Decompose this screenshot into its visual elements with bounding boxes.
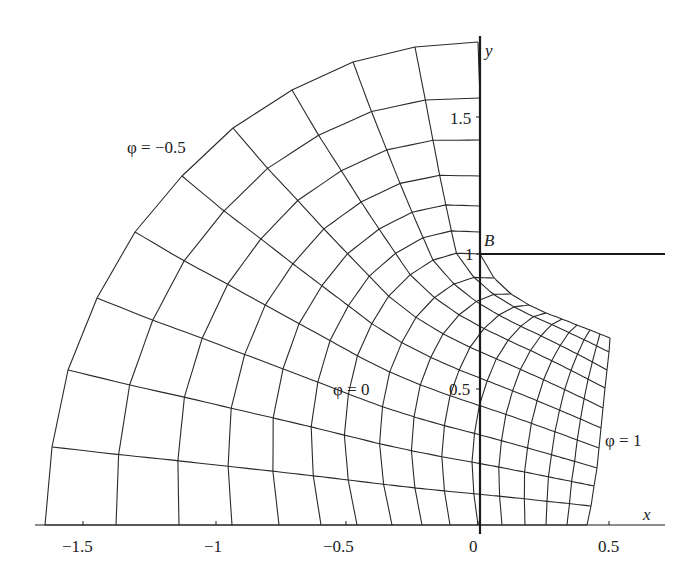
- streamline: [135, 232, 599, 448]
- equipotential-line: [567, 334, 600, 525]
- point-b-label: B: [484, 232, 494, 249]
- streamline: [182, 176, 601, 428]
- x-tick-label: 0.5: [598, 538, 619, 555]
- x-tick-label: −1.5: [62, 538, 93, 555]
- x-tick-label: −0.5: [323, 538, 354, 555]
- y-axis-label: y: [485, 42, 493, 59]
- equipotential-line: [228, 175, 480, 525]
- streamline: [478, 42, 610, 338]
- equipotential-line: [524, 325, 577, 525]
- flow-net-plot: [0, 0, 700, 586]
- axes: [35, 36, 665, 534]
- phi-outer-label: φ = −0.5: [127, 139, 186, 156]
- streamline: [52, 447, 591, 506]
- equipotential-line: [178, 140, 480, 525]
- equipotential-line: [116, 98, 480, 525]
- y-tick-label: 1.5: [450, 110, 471, 127]
- x-tick-label: 0: [469, 538, 478, 555]
- streamline: [415, 47, 609, 352]
- y-tick-label: 0.5: [449, 381, 470, 398]
- phi-one-label: φ = 1: [605, 432, 641, 449]
- equipotential-line: [45, 42, 478, 525]
- equipotential-line: [411, 294, 511, 525]
- phi-zero-label: φ = 0: [333, 381, 369, 398]
- streamline: [233, 128, 603, 408]
- equipotential-line: [380, 277, 494, 525]
- flow-net-diagram: −1.5 −1 −0.5 0 0.5 x y 1.5 1 0.5 B φ = −…: [0, 0, 700, 586]
- streamline: [292, 90, 605, 388]
- y-tick-label: 1: [465, 246, 474, 263]
- equipotential-line: [311, 231, 480, 525]
- flow-net-grid: [45, 42, 610, 525]
- x-axis-label: x: [643, 506, 651, 523]
- x-tick-label: −1: [204, 538, 222, 555]
